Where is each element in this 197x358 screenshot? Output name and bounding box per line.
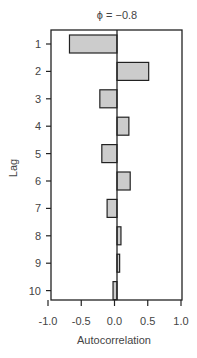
bar-series [69, 35, 148, 300]
x-tick-label: 0.0 [107, 315, 122, 327]
bar-lag-5 [102, 145, 117, 163]
y-axis: 12345678910 [29, 38, 51, 297]
chart-title: ϕ = −0.8 [97, 9, 137, 21]
x-tick-label: 1.0 [173, 315, 188, 327]
bar-lag-6 [117, 172, 130, 190]
y-tick-label: 4 [35, 120, 41, 132]
x-tick-label: 0.5 [140, 315, 155, 327]
y-tick-label: 8 [35, 230, 41, 242]
bar-lag-3 [100, 90, 117, 108]
x-axis: -1.0-0.50.00.51.0 [39, 300, 189, 327]
x-axis-label: Autocorrelation [77, 334, 151, 346]
bar-lag-1 [69, 35, 117, 53]
x-tick-label: -0.5 [72, 315, 91, 327]
bar-lag-2 [117, 62, 149, 80]
x-tick-label: -1.0 [39, 315, 58, 327]
y-tick-label: 6 [35, 175, 41, 187]
bar-lag-4 [117, 117, 129, 135]
y-tick-label: 7 [35, 202, 41, 214]
y-tick-label: 10 [29, 285, 41, 297]
bar-lag-7 [107, 199, 117, 217]
y-tick-label: 1 [35, 38, 41, 50]
y-axis-label: Lag [7, 159, 19, 177]
y-tick-label: 3 [35, 93, 41, 105]
y-tick-label: 5 [35, 148, 41, 160]
autocorrelation-chart: ϕ = −0.8 12345678910 -1.0-0.50.00.51.0 A… [0, 0, 197, 358]
y-tick-label: 9 [35, 257, 41, 269]
y-tick-label: 2 [35, 65, 41, 77]
